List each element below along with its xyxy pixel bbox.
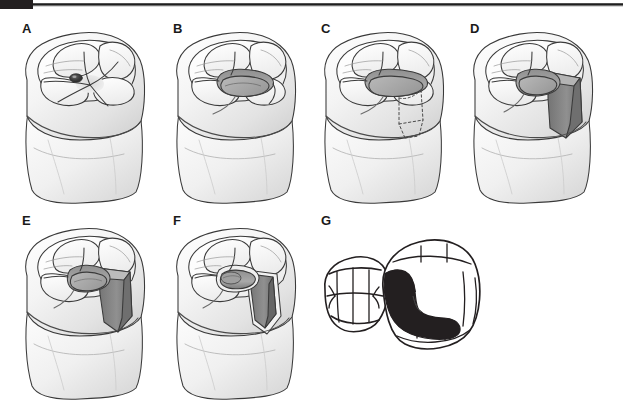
panel-d: D Proximal box cut to full depth joining… bbox=[462, 20, 612, 205]
panel-d-illustration bbox=[462, 20, 612, 205]
panel-e: E Preparation refined; walls smoothed an… bbox=[14, 212, 162, 402]
occlusal-preparation-b bbox=[217, 69, 274, 96]
panel-f-illustration bbox=[165, 212, 313, 402]
header-tab bbox=[0, 0, 33, 9]
panel-c: C Occlusal preparation with dashed outli… bbox=[313, 20, 461, 205]
panel-a-illustration bbox=[14, 20, 159, 205]
panel-f: F Completed preparation with bevelled ca… bbox=[165, 212, 313, 402]
panel-e-illustration bbox=[14, 212, 162, 402]
panel-c-illustration bbox=[313, 20, 461, 205]
panel-g: G Occlusal view of premolar and molar; c… bbox=[313, 212, 493, 392]
panel-b-illustration bbox=[165, 20, 310, 205]
panel-a: A Intact molar with small carious pit in… bbox=[14, 20, 159, 205]
figure-root: Class II cavity preparation sequence on … bbox=[0, 0, 623, 411]
panel-b: B Initial occlusal outline opened throug… bbox=[165, 20, 310, 205]
panel-g-illustration bbox=[313, 212, 493, 392]
caries-pit-a bbox=[70, 74, 83, 82]
header-rule-underline bbox=[33, 6, 623, 7]
